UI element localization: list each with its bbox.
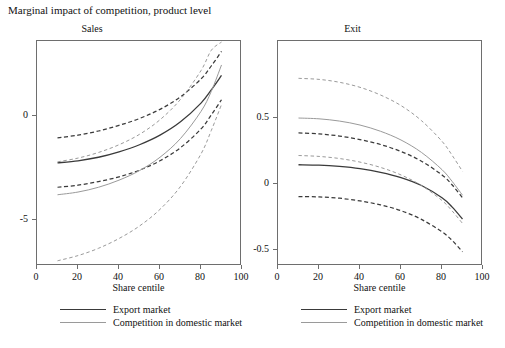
y-tick-mark-exit-1 <box>273 183 277 184</box>
plot-curves-exit <box>278 41 483 266</box>
curve-sales-2 <box>58 100 222 188</box>
curve-sales-4 <box>58 42 222 162</box>
figure-root: Marginal impact of competition, product … <box>0 0 505 348</box>
x-tick-mark-exit-5 <box>482 265 483 269</box>
y-tick-label-exit-0: 0.5 <box>239 112 269 122</box>
x-tick-label-sales-1: 20 <box>62 272 92 282</box>
x-tick-label-exit-3: 60 <box>385 272 415 282</box>
legend-label-domestic-competition: Competition in domestic market <box>354 316 483 329</box>
plot-frame-exit <box>277 40 482 265</box>
x-axis-label-exit: Share centile <box>277 282 482 294</box>
legend-line-swatch-domestic-competition <box>60 322 106 323</box>
legend-line-swatch-export-market <box>60 309 106 310</box>
y-tick-mark-sales-0 <box>32 115 36 116</box>
legend-label-domestic-competition: Competition in domestic market <box>113 316 242 329</box>
legend-label-export-market: Export market <box>113 303 170 316</box>
x-tick-mark-exit-2 <box>359 265 360 269</box>
plot-frame-sales <box>36 40 241 265</box>
x-tick-mark-sales-3 <box>159 265 160 269</box>
legend-label-export-market: Export market <box>354 303 411 316</box>
curve-sales-5 <box>58 105 222 261</box>
x-tick-mark-sales-1 <box>77 265 78 269</box>
x-tick-label-sales-2: 40 <box>103 272 133 282</box>
y-tick-label-sales-0: 0 <box>0 110 28 120</box>
x-tick-label-sales-3: 60 <box>144 272 174 282</box>
x-tick-mark-exit-4 <box>441 265 442 269</box>
y-tick-label-sales-1: -5 <box>0 214 28 224</box>
curve-exit-0 <box>299 165 463 219</box>
panel-title-exit: Exit <box>226 22 479 35</box>
x-tick-label-exit-5: 100 <box>467 272 497 282</box>
x-tick-mark-sales-4 <box>200 265 201 269</box>
curve-exit-2 <box>299 197 463 252</box>
x-tick-mark-sales-5 <box>241 265 242 269</box>
legend-line-swatch-export-market <box>301 309 347 310</box>
plot-curves-sales <box>37 41 242 266</box>
x-tick-mark-exit-0 <box>277 265 278 269</box>
x-axis-label-sales: Share centile <box>36 282 241 294</box>
x-tick-mark-sales-2 <box>118 265 119 269</box>
panel-sales: Sales 0-5 020406080100 Share centile Exp… <box>0 0 252 348</box>
curve-sales-0 <box>58 75 222 163</box>
curve-exit-4 <box>299 78 463 171</box>
curve-sales-3 <box>58 65 222 195</box>
x-tick-mark-sales-0 <box>36 265 37 269</box>
x-tick-mark-exit-1 <box>318 265 319 269</box>
x-tick-label-exit-2: 40 <box>344 272 374 282</box>
panel-exit: Exit 0.50-0.5 020406080100 Share centile… <box>252 0 505 348</box>
curve-sales-1 <box>58 51 222 137</box>
x-tick-label-sales-4: 80 <box>185 272 215 282</box>
panel-title-sales: Sales <box>0 22 218 35</box>
y-tick-mark-sales-1 <box>32 219 36 220</box>
y-tick-mark-exit-0 <box>273 117 277 118</box>
y-tick-label-exit-1: 0 <box>239 178 269 188</box>
x-tick-label-sales-0: 0 <box>21 272 51 282</box>
y-tick-label-exit-2: -0.5 <box>239 244 269 254</box>
y-tick-mark-exit-2 <box>273 249 277 250</box>
x-tick-mark-exit-3 <box>400 265 401 269</box>
legend-line-swatch-domestic-competition <box>301 322 347 323</box>
x-tick-label-exit-1: 20 <box>303 272 333 282</box>
x-tick-label-exit-4: 80 <box>426 272 456 282</box>
x-tick-label-exit-0: 0 <box>262 272 292 282</box>
